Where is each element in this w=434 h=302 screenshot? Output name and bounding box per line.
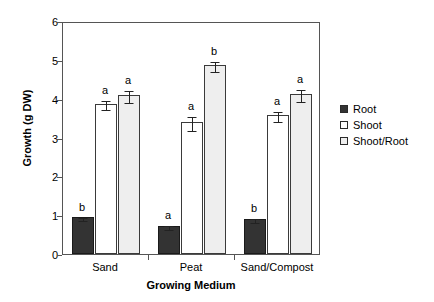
significance-letter: a bbox=[274, 96, 280, 107]
bar-shoot-root-peat bbox=[204, 65, 226, 254]
x-axis-title: Growing Medium bbox=[62, 279, 320, 291]
legend-item-root: Root bbox=[340, 101, 432, 117]
error-bar bbox=[192, 117, 193, 130]
x-axis-tick-label: Sand/Compost bbox=[241, 261, 314, 273]
bar-shoot-sand bbox=[95, 104, 117, 254]
error-bar-cap bbox=[251, 223, 260, 224]
significance-letter: a bbox=[102, 85, 108, 96]
figure-bar-chart: Growth (g DW) 0123456 SandPeatSand/Compo… bbox=[0, 0, 434, 302]
error-bar-cap bbox=[102, 110, 111, 111]
significance-letter: a bbox=[297, 74, 303, 85]
error-bar bbox=[129, 91, 130, 103]
x-axis-tick-label: Sand bbox=[92, 261, 118, 273]
error-bar-cap bbox=[79, 218, 88, 219]
chart-legend: RootShootShoot/Root bbox=[340, 101, 432, 149]
y-axis-tick-label: 4 bbox=[0, 94, 58, 105]
y-axis-tick-label: 2 bbox=[0, 172, 58, 183]
error-bar-cap bbox=[165, 230, 174, 231]
significance-letter: b bbox=[251, 203, 257, 214]
legend-item-label: Shoot/Root bbox=[353, 136, 408, 147]
error-bar-cap bbox=[102, 101, 111, 102]
x-axis-tick-mark bbox=[234, 255, 235, 260]
significance-letter: b bbox=[211, 46, 217, 57]
error-bar-cap bbox=[125, 103, 134, 104]
error-bar-cap bbox=[274, 112, 283, 113]
bar-shoot-root-sand bbox=[118, 95, 140, 254]
error-bar-cap bbox=[165, 226, 174, 227]
error-bar bbox=[215, 62, 216, 71]
significance-letter: a bbox=[125, 75, 131, 86]
x-axis-tick-mark bbox=[148, 255, 149, 260]
bar-series-layer bbox=[63, 23, 319, 254]
significance-letter: a bbox=[165, 210, 171, 221]
y-axis-tick-mark bbox=[57, 255, 62, 256]
error-bar bbox=[301, 90, 302, 102]
legend-item-shoot-root: Shoot/Root bbox=[340, 133, 432, 149]
legend-swatch-icon bbox=[340, 105, 348, 113]
y-axis-tick-label: 1 bbox=[0, 211, 58, 222]
legend-item-label: Root bbox=[353, 104, 376, 115]
legend-swatch-icon bbox=[340, 137, 348, 145]
error-bar-cap bbox=[297, 90, 306, 91]
legend-swatch-icon bbox=[340, 121, 348, 129]
x-axis-tick-label: Peat bbox=[180, 261, 203, 273]
y-axis-tick-label: 0 bbox=[0, 250, 58, 261]
error-bar-cap bbox=[188, 131, 197, 132]
error-bar-cap bbox=[79, 221, 88, 222]
error-bar-cap bbox=[211, 62, 220, 63]
error-bar-cap bbox=[274, 122, 283, 123]
legend-item-shoot: Shoot bbox=[340, 117, 432, 133]
error-bar bbox=[278, 112, 279, 123]
y-axis-tick-label: 5 bbox=[0, 55, 58, 66]
error-bar bbox=[106, 101, 107, 110]
significance-letter: a bbox=[188, 101, 194, 112]
bar-root-sand bbox=[72, 217, 94, 254]
error-bar-cap bbox=[211, 72, 220, 73]
error-bar-cap bbox=[188, 117, 197, 118]
error-bar-cap bbox=[297, 102, 306, 103]
significance-letter: b bbox=[79, 202, 85, 213]
y-axis-tick-label: 3 bbox=[0, 133, 58, 144]
bar-shoot-peat bbox=[181, 122, 203, 254]
y-axis-tick-label: 6 bbox=[0, 17, 58, 28]
bar-shoot-root-sand-compost bbox=[290, 94, 312, 254]
error-bar-cap bbox=[251, 219, 260, 220]
error-bar-cap bbox=[125, 91, 134, 92]
legend-item-label: Shoot bbox=[353, 120, 382, 131]
bar-shoot-sand-compost bbox=[267, 115, 289, 254]
plot-area bbox=[62, 22, 320, 255]
